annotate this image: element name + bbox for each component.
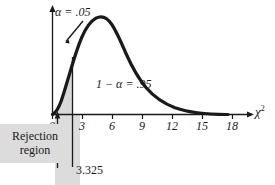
x-tick-label-12: 12 xyxy=(166,120,178,132)
x-tick-label-15: 15 xyxy=(196,120,208,132)
x-tick-label-18: 18 xyxy=(226,120,238,132)
alpha-label: α = .05 xyxy=(55,6,90,18)
x-axis-title: χ2 xyxy=(255,105,265,118)
x-tick-label-9: 9 xyxy=(139,120,145,132)
x-axis-arrowhead xyxy=(247,111,254,117)
rejection-region-label-line2: region xyxy=(20,144,51,158)
confidence-label: 1 − α = .95 xyxy=(96,78,152,90)
chi-square-density-curve xyxy=(53,17,229,115)
rejection-region-label-line1: Rejection xyxy=(12,130,58,144)
rejection-region-box: Rejection region xyxy=(0,124,70,163)
alpha-shaded-area xyxy=(53,58,73,115)
chi-exponent: 2 xyxy=(261,104,265,113)
chi-square-rejection-region-figure: α = .05 1 − α = .95 0 3 6 9 12 15 18 χ2 … xyxy=(0,0,275,185)
critical-value-label: 3.325 xyxy=(76,164,103,176)
x-tick-label-6: 6 xyxy=(109,120,115,132)
x-tick-label-3: 3 xyxy=(79,120,85,132)
